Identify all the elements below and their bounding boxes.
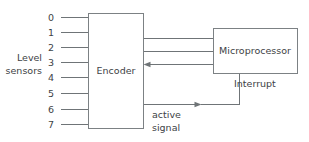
encoder-block: Encoder	[89, 14, 144, 129]
sensor-index-labels: 0 1 2 3 4 5 6 7	[48, 12, 54, 130]
data-bus-wires	[144, 39, 214, 68]
sensor-index-5: 5	[48, 88, 54, 99]
sensor-index-4: 4	[48, 72, 54, 83]
sensor-index-3: 3	[48, 57, 54, 68]
sensor-input-wires	[61, 18, 89, 125]
sensor-index-7: 7	[48, 119, 54, 130]
block-diagram: 0 1 2 3 4 5 6 7 Level sensors Encoder	[0, 0, 309, 142]
active-signal-wire-group: active signal	[144, 102, 202, 133]
diagram-canvas: 0 1 2 3 4 5 6 7 Level sensors Encoder	[0, 0, 309, 142]
active-signal-arrow-icon	[195, 102, 202, 107]
sensor-index-0: 0	[48, 12, 54, 23]
interrupt-wire-group: Interrupt	[201, 74, 277, 105]
active-signal-label-line1: active	[152, 109, 181, 120]
interrupt-label: Interrupt	[234, 78, 276, 89]
active-signal-label-line2: signal	[152, 122, 180, 133]
level-sensors-label-line2: sensors	[6, 65, 42, 76]
microprocessor-label: Microprocessor	[219, 45, 291, 56]
level-sensors-label: Level sensors	[6, 52, 42, 76]
level-sensors-label-line1: Level	[17, 52, 42, 63]
data-bus-arrow-icon	[144, 62, 151, 67]
microprocessor-block: Microprocessor	[214, 29, 298, 74]
encoder-label: Encoder	[97, 65, 136, 76]
sensor-index-1: 1	[48, 27, 54, 38]
sensor-index-2: 2	[48, 42, 54, 53]
sensor-index-6: 6	[48, 104, 54, 115]
